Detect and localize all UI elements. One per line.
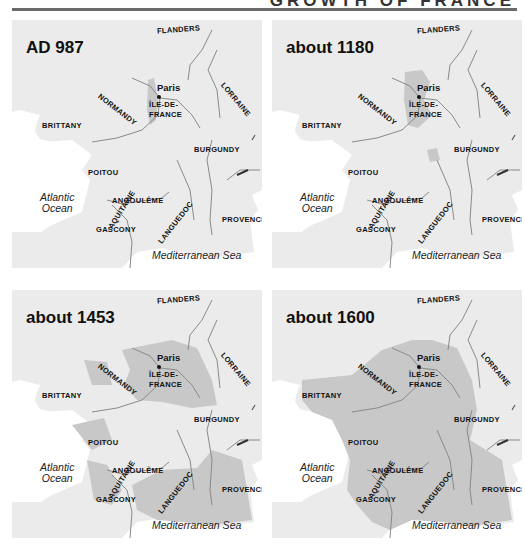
label-provence: Provence (482, 485, 522, 494)
paris-marker-icon (157, 365, 161, 369)
label-ile-de-france-2: France (409, 110, 442, 119)
label-burgundy: Burgundy (194, 415, 240, 424)
map-panel-1600: about 1600 Flanders Normandy Paris Île-d… (272, 290, 522, 538)
panel-title: about 1453 (26, 308, 115, 328)
label-mediterranean-sea: Mediterranean Sea (412, 520, 501, 531)
label-atlantic-ocean: AtlanticOcean (40, 462, 74, 484)
map-panel-987: AD 987 Flanders Normandy Paris Île-de- F… (12, 20, 262, 268)
label-gascony: Gascony (356, 495, 396, 504)
panel-title: AD 987 (26, 38, 84, 58)
label-paris: Paris (417, 82, 440, 93)
label-atlantic-ocean: AtlanticOcean (40, 192, 74, 214)
panel-title: about 1600 (286, 308, 375, 328)
label-paris: Paris (157, 82, 180, 93)
label-paris: Paris (417, 352, 440, 363)
label-provence: Provence (222, 485, 262, 494)
label-gascony: Gascony (96, 495, 136, 504)
label-ile-de-france-2: France (409, 380, 442, 389)
paris-marker-icon (157, 95, 161, 99)
label-ile-de-france-2: France (149, 110, 182, 119)
label-mediterranean-sea: Mediterranean Sea (412, 250, 501, 261)
map-panel-1180: about 1180 Flanders Normandy Paris Île-d… (272, 20, 522, 268)
label-gascony: Gascony (96, 225, 136, 234)
label-paris: Paris (157, 352, 180, 363)
paris-marker-icon (417, 95, 421, 99)
label-ile-de-france-1: Île-de- (149, 100, 178, 109)
label-ile-de-france-2: France (149, 380, 182, 389)
label-mediterranean-sea: Mediterranean Sea (152, 520, 241, 531)
label-poitou: Poitou (88, 438, 118, 447)
map-panel-1453: about 1453 Flanders Normandy Paris Île-d… (12, 290, 262, 538)
label-provence: Provence (482, 215, 522, 224)
label-brittany: Brittany (302, 391, 342, 400)
label-poitou: Poitou (348, 438, 378, 447)
panel-title: about 1180 (286, 38, 374, 58)
label-burgundy: Burgundy (194, 145, 240, 154)
header-rule (12, 8, 517, 11)
label-provence: Provence (222, 215, 262, 224)
label-brittany: Brittany (42, 121, 82, 130)
label-burgundy: Burgundy (454, 145, 500, 154)
paris-marker-icon (417, 365, 421, 369)
label-ile-de-france-1: Île-de- (409, 100, 438, 109)
label-mediterranean-sea: Mediterranean Sea (152, 250, 241, 261)
label-ile-de-france-1: Île-de- (149, 370, 178, 379)
label-gascony: Gascony (356, 225, 396, 234)
label-brittany: Brittany (42, 391, 82, 400)
label-poitou: Poitou (348, 168, 378, 177)
label-ile-de-france-1: Île-de- (409, 370, 438, 379)
label-burgundy: Burgundy (454, 415, 500, 424)
label-poitou: Poitou (88, 168, 118, 177)
label-atlantic-ocean: AtlanticOcean (300, 192, 334, 214)
label-atlantic-ocean: AtlanticOcean (300, 462, 334, 484)
label-brittany: Brittany (302, 121, 342, 130)
